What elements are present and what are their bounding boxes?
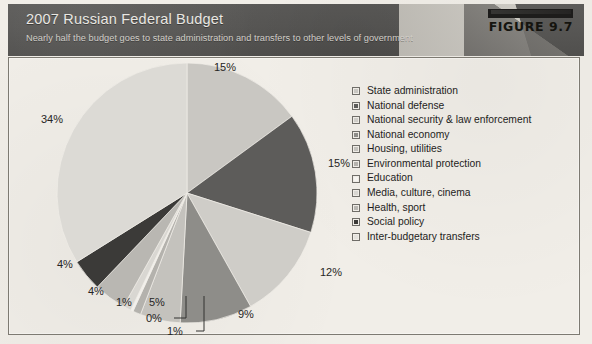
legend-swatch-icon <box>352 116 360 124</box>
figure-page: 2007 Russian Federal Budget Nearly half … <box>0 0 592 344</box>
legend-item-label: National defense <box>367 101 444 111</box>
legend-swatch-icon <box>352 218 360 226</box>
legend-item-label: National security & law enforcement <box>367 115 531 125</box>
pie-slice-label: 5% <box>149 296 165 308</box>
legend-swatch-icon <box>352 145 360 153</box>
legend-item-label: Media, culture, cinema <box>367 188 471 198</box>
pie-slice-label: 9% <box>238 308 254 320</box>
pie-slice-label: 1% <box>116 296 132 308</box>
legend-item-label: Health, sport <box>367 203 425 213</box>
legend-item[interactable]: Education <box>352 171 574 186</box>
pie-slice-label: 15% <box>214 61 236 73</box>
figure-number-bar <box>488 9 573 18</box>
figure-header: 2007 Russian Federal Budget Nearly half … <box>8 4 584 56</box>
legend-item[interactable]: State administration <box>352 84 574 99</box>
pie-slice-label: 15% <box>328 157 350 169</box>
pie-slice-label: 4% <box>88 285 104 297</box>
legend-item-label: Environmental protection <box>367 159 481 169</box>
pie-slice-label: 34% <box>41 113 63 125</box>
legend-item-label: National economy <box>367 130 449 140</box>
legend-swatch-icon <box>352 102 360 110</box>
legend-swatch-icon <box>352 87 360 95</box>
legend-item[interactable]: Environmental protection <box>352 157 574 172</box>
legend-swatch-icon <box>352 233 360 241</box>
legend-item[interactable]: Media, culture, cinema <box>352 186 574 201</box>
legend-item[interactable]: National economy <box>352 128 574 143</box>
legend-item[interactable]: Inter-budgetary transfers <box>352 229 574 244</box>
legend-swatch-icon <box>352 160 360 168</box>
legend-swatch-icon <box>352 131 360 139</box>
pie-slice-label: 0% <box>146 312 162 324</box>
legend-item[interactable]: Health, sport <box>352 200 574 215</box>
legend-item[interactable]: Housing, utilities <box>352 142 574 157</box>
legend-item-label: State administration <box>367 86 458 96</box>
pie-slice-label: 4% <box>57 258 73 270</box>
legend-item[interactable]: National defense <box>352 99 574 114</box>
figure-title: 2007 Russian Federal Budget <box>26 11 223 27</box>
legend-item[interactable]: Social policy <box>352 215 574 230</box>
chart-legend: State administrationNational defenseNati… <box>352 84 574 244</box>
legend-item-label: Social policy <box>367 217 424 227</box>
pie-slice-label: 12% <box>320 266 342 278</box>
legend-swatch-icon <box>352 204 360 212</box>
figure-number-label: FIGURE 9.7 <box>485 19 573 34</box>
legend-swatch-icon <box>352 189 360 197</box>
legend-item-label: Inter-budgetary transfers <box>367 232 480 242</box>
legend-item-label: Housing, utilities <box>367 144 442 154</box>
pie-slice-label: 1% <box>167 325 183 335</box>
legend-swatch-icon <box>352 175 360 183</box>
figure-subtitle: Nearly half the budget goes to state adm… <box>26 33 413 43</box>
legend-item-label: Education <box>367 173 413 183</box>
pie-slices <box>57 63 317 323</box>
legend-item[interactable]: National security & law enforcement <box>352 113 574 128</box>
